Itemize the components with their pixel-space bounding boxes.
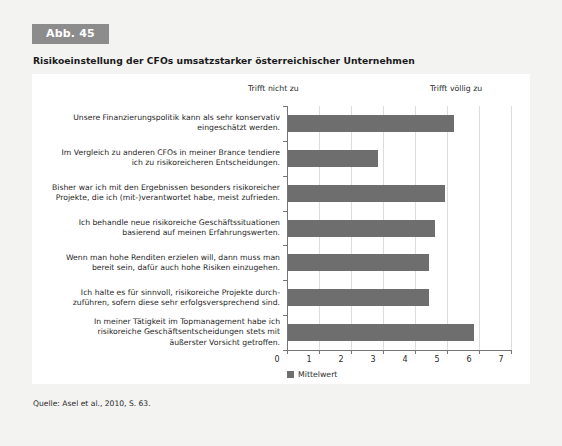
bar	[288, 115, 454, 132]
y-axis-tick	[283, 280, 287, 281]
category-label: In meiner Tätigkeit im Topmanagement hab…	[40, 317, 280, 347]
chart-legend: Mittelwert	[287, 370, 337, 379]
figure-title: Risikoeinstellung der CFOs umsatzstarker…	[33, 55, 415, 66]
bar	[288, 289, 429, 306]
x-axis-tick	[415, 350, 416, 354]
x-axis-tick-label: 5	[427, 355, 447, 364]
figure-page: Abb. 45 Risikoeinstellung der CFOs umsat…	[0, 0, 562, 446]
x-axis-tick-label: 6	[459, 355, 479, 364]
y-axis-tick	[283, 141, 287, 142]
x-axis-tick	[511, 350, 512, 354]
x-axis-tick-label: 1	[299, 355, 319, 364]
category-label: Ich behandle neue risikoreiche Geschäfts…	[40, 218, 280, 238]
category-label-column: Unsere Finanzierungspolitik kann als seh…	[40, 106, 280, 350]
category-label: Unsere Finanzierungspolitik kann als seh…	[40, 113, 280, 133]
y-axis-tick	[283, 211, 287, 212]
scale-anchor-row: Trifft nicht zu Trifft völlig zu	[32, 84, 530, 98]
y-axis-tick	[283, 315, 287, 316]
gridline	[447, 106, 448, 350]
scale-anchor-right: Trifft völlig zu	[430, 84, 482, 93]
x-axis-tick	[383, 350, 384, 354]
legend-swatch	[287, 371, 294, 378]
category-label: Wenn man hohe Renditen erzielen will, da…	[40, 253, 280, 273]
figure-number-tab: Abb. 45	[32, 24, 109, 44]
chart-panel: Trifft nicht zu Trifft völlig zu Unsere …	[32, 74, 530, 384]
plot-area: 01234567	[287, 106, 511, 350]
category-label: Im Vergleich zu anderen CFOs in meiner B…	[40, 148, 280, 168]
category-label: Bisher war ich mit den Ergebnissen beson…	[40, 183, 280, 203]
bar	[288, 254, 429, 271]
source-note: Quelle: Asel et al., 2010, S. 63.	[33, 399, 151, 408]
x-axis-tick	[479, 350, 480, 354]
gridline	[511, 106, 512, 350]
x-axis-tick-label: 0	[267, 355, 287, 364]
y-axis-tick	[283, 350, 287, 351]
bar	[288, 150, 378, 167]
gridline	[479, 106, 480, 350]
y-axis-tick	[283, 106, 287, 107]
bar	[288, 185, 445, 202]
bar	[288, 220, 435, 237]
x-axis-tick	[319, 350, 320, 354]
legend-label: Mittelwert	[298, 370, 337, 379]
x-axis-tick-label: 3	[363, 355, 383, 364]
y-axis-tick	[283, 245, 287, 246]
y-axis-tick	[283, 176, 287, 177]
x-axis-tick-label: 7	[491, 355, 511, 364]
scale-anchor-left: Trifft nicht zu	[248, 84, 299, 93]
x-axis-tick-label: 2	[331, 355, 351, 364]
bar	[288, 324, 474, 341]
x-axis-tick	[351, 350, 352, 354]
x-axis-tick	[447, 350, 448, 354]
category-label: Ich halte es für sinnvoll, risikoreiche …	[40, 288, 280, 308]
x-axis-tick-label: 4	[395, 355, 415, 364]
x-axis-tick	[287, 350, 288, 354]
